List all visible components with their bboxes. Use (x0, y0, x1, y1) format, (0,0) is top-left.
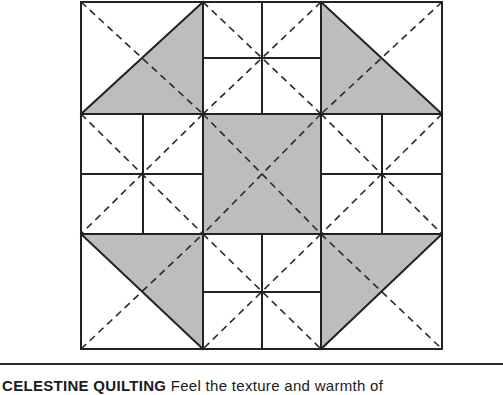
quilt-block-diagram (0, 0, 503, 360)
caption-title: CELESTINE QUILTING (2, 377, 166, 394)
divider-rule (0, 363, 503, 365)
caption: CELESTINE QUILTING Feel the texture and … (2, 377, 502, 395)
caption-body: Feel the texture and warmth of (166, 377, 383, 394)
